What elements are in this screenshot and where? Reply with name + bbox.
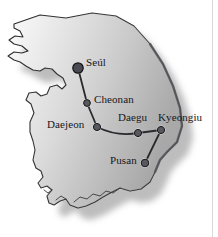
- city-marker-daegu[interactable]: [134, 129, 143, 138]
- city-marker-daejeon[interactable]: [93, 123, 102, 132]
- marker-dot[interactable]: [93, 123, 100, 130]
- city-label-daejeon: Daejeon: [47, 119, 84, 130]
- city-marker-cheonan[interactable]: [83, 99, 92, 108]
- marker-dot[interactable]: [73, 63, 83, 73]
- marker-dot[interactable]: [141, 159, 149, 167]
- city-label-cheonan: Cheonan: [94, 94, 134, 105]
- map-figure: Seúl Cheonan Daejeon Daegu Kyeongiu Pusa…: [0, 0, 218, 237]
- marker-dot[interactable]: [84, 100, 91, 107]
- city-marker-kyeongiu[interactable]: [157, 126, 166, 135]
- city-marker-pusan[interactable]: [140, 158, 149, 167]
- marker-dot[interactable]: [134, 129, 141, 136]
- marker-dot[interactable]: [157, 126, 164, 133]
- city-label-daegu: Daegu: [118, 112, 147, 123]
- city-label-pusan: Pusan: [110, 155, 137, 166]
- panel-divider: [212, 0, 213, 237]
- city-label-kyeongiu: Kyeongiu: [158, 112, 202, 123]
- city-label-seul: Seúl: [86, 57, 106, 68]
- city-marker-sel[interactable]: [72, 62, 84, 74]
